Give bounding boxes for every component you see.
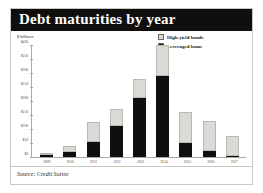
bar-segment-leveraged-loans[interactable]: [133, 98, 146, 157]
bar-segment-leveraged-loans[interactable]: [87, 142, 100, 157]
y-axis-tick-label: $0: [24, 152, 28, 156]
source-note: Source: Credit Suisse: [17, 171, 69, 177]
y-axis-tick-label: $300: [21, 68, 28, 72]
bar-2017[interactable]: [226, 136, 239, 157]
y-axis-tick-label: $350: [21, 54, 28, 58]
bar-segment-high-yield-bonds[interactable]: [156, 45, 169, 76]
bar-segment-leveraged-loans[interactable]: [226, 156, 239, 157]
plot-area: $ billions High-yield bonds Leveraged lo…: [11, 31, 252, 169]
y-axis-line: [31, 46, 32, 158]
y-axis-tick: [30, 45, 33, 46]
y-axis-tick: [30, 87, 33, 88]
bar-2012[interactable]: [110, 109, 123, 157]
bar-2013[interactable]: [133, 79, 146, 157]
y-axis-tick: [30, 59, 33, 60]
bar-segment-high-yield-bonds[interactable]: [226, 136, 239, 156]
y-axis-unit-label: $ billions: [17, 34, 34, 39]
chart-title-bar: Debt maturities by year: [11, 9, 252, 31]
y-axis-tick: [30, 129, 33, 130]
bar-segment-leveraged-loans[interactable]: [63, 152, 76, 157]
plot-canvas: $0$50$100$150$200$250$300$350$400: [31, 46, 246, 158]
bar-group: [35, 46, 244, 157]
bar-segment-high-yield-bonds[interactable]: [179, 112, 192, 143]
bar-segment-leveraged-loans[interactable]: [203, 151, 216, 157]
y-axis-tick: [30, 73, 33, 74]
bar-segment-high-yield-bonds[interactable]: [110, 109, 123, 126]
y-axis-tick: [30, 143, 33, 144]
x-axis-line: [31, 157, 246, 158]
y-axis-tick: [30, 115, 33, 116]
y-axis-tick-label: $150: [21, 110, 28, 114]
bar-2016[interactable]: [203, 121, 216, 157]
bar-segment-high-yield-bonds[interactable]: [203, 121, 216, 152]
chart-title: Debt maturities by year: [19, 11, 176, 28]
legend-swatch-high-yield-bonds: [158, 34, 164, 40]
y-axis-tick-label: $50: [23, 138, 28, 142]
bar-2010[interactable]: [63, 146, 76, 157]
bar-segment-leveraged-loans[interactable]: [179, 143, 192, 157]
y-axis-tick-label: $200: [21, 96, 28, 100]
legend-item-high-yield-bonds: High-yield bonds: [158, 34, 244, 40]
bar-2009[interactable]: [40, 153, 53, 157]
bar-segment-leveraged-loans[interactable]: [110, 126, 123, 157]
y-axis-tick: [30, 157, 33, 158]
bar-2011[interactable]: [87, 122, 100, 157]
bar-2014[interactable]: [156, 45, 169, 157]
bar-2015[interactable]: [179, 112, 192, 157]
bar-segment-leveraged-loans[interactable]: [40, 155, 53, 157]
y-axis-tick-label: $400: [21, 40, 28, 44]
bar-segment-high-yield-bonds[interactable]: [133, 79, 146, 98]
y-axis-tick: [30, 101, 33, 102]
y-axis-tick-label: $100: [21, 124, 28, 128]
source-bar: Source: Credit Suisse: [11, 166, 252, 184]
bar-segment-leveraged-loans[interactable]: [156, 76, 169, 157]
legend-label-high-yield-bonds: High-yield bonds: [167, 35, 204, 40]
y-axis-tick-label: $250: [21, 82, 28, 86]
chart-card: Debt maturities by year $ billions High-…: [10, 8, 253, 185]
bar-segment-high-yield-bonds[interactable]: [87, 122, 100, 142]
